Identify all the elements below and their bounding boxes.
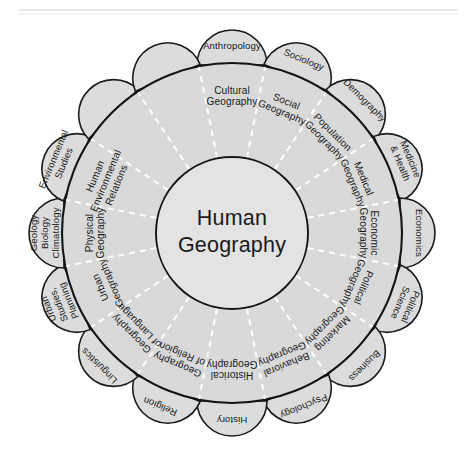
ring-label-8-line-0: Historical: [211, 370, 254, 381]
human-geography-wheel-diagram: AnthropologySociologyDemographyMedicine&…: [0, 0, 465, 461]
ring-label-8: HistoricalGeography: [206, 359, 258, 382]
center-title-line-1: Geography: [178, 233, 286, 257]
ring-label-12-line-0: Physical: [84, 214, 95, 252]
ring-label-12-line-1: Geography: [95, 207, 106, 259]
petal-label-0: Anthropology: [203, 40, 261, 51]
ring-label-0-line-1: Geography: [207, 96, 259, 107]
petal-label-4: Economics: [414, 209, 425, 257]
ring-label-4: EconomicGeography: [358, 208, 381, 260]
center-title-line-0: Human: [197, 206, 267, 230]
petal-label-0-line-0: Anthropology: [203, 40, 261, 51]
petal-label-12-line-0: Geology: [28, 215, 39, 252]
wheel-svg: AnthropologySociologyDemographyMedicine&…: [0, 0, 465, 461]
petal-label-4-line-0: Economics: [414, 209, 425, 257]
petal-label-8: History: [217, 415, 248, 426]
ring-label-0-line-0: Cultural: [214, 85, 250, 96]
petal-label-12-line-2: Climatology: [50, 207, 61, 258]
petal-label-8-line-0: History: [217, 415, 248, 426]
petal-label-12-line-1: Biology: [39, 217, 50, 249]
ring-label-12: PhysicalGeography: [84, 207, 107, 259]
ring-label-4-line-1: Geography: [358, 208, 369, 260]
ring-label-4-line-0: Economic: [369, 210, 380, 255]
ring-label-8-line-1: Geography: [206, 359, 258, 370]
